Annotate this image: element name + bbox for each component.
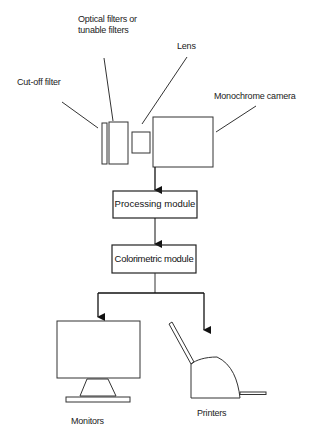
- optical-filter-shape: [109, 122, 128, 164]
- processing-module-label: Processing module: [113, 198, 197, 210]
- imaging-pipeline-diagram: [0, 0, 315, 442]
- optical-filters-label-line2: tunable filters: [78, 25, 137, 36]
- colorimetric-module-label: Colorimetric module: [112, 253, 196, 265]
- printer-icon: [169, 322, 266, 398]
- lens-leader: [142, 57, 187, 124]
- lens-shape: [132, 132, 150, 153]
- cutoff-filter-leader: [62, 102, 98, 128]
- printers-label: Printers: [197, 408, 226, 419]
- optical-filters-label: Optical filters or tunable filters: [78, 14, 137, 36]
- optical-filters-leader: [104, 58, 113, 121]
- lens-label: Lens: [177, 41, 196, 52]
- optical-filters-label-line1: Optical filters or: [78, 14, 137, 25]
- monitor-icon: [57, 321, 140, 402]
- cutoff-filter-shape: [102, 123, 107, 164]
- monitors-label: Monitors: [71, 416, 104, 427]
- camera-shape: [153, 117, 213, 167]
- camera-leader: [216, 106, 256, 132]
- monochrome-camera-label: Monochrome camera: [214, 91, 296, 102]
- cutoff-filter-label: Cut-off filter: [17, 77, 61, 88]
